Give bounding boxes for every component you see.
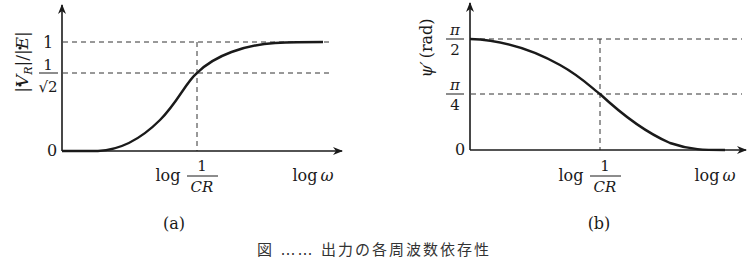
xlabel-b: logω (694, 166, 735, 185)
panel-label-b: (b) (588, 214, 611, 233)
svg-text:1: 1 (600, 157, 610, 175)
ytick-inv-sqrt2-num: 1 (43, 56, 53, 74)
svg-text:CR: CR (191, 178, 214, 196)
ytick-pi-half-den: 2 (450, 41, 460, 59)
figure-caption: 図 …… 出力の各周波数依存性 (0, 238, 748, 259)
svg-text:1: 1 (197, 157, 207, 175)
ytick-pi-quarter-den: 4 (450, 96, 460, 114)
dot-over-v (18, 83, 21, 86)
xtick-cutoff-a: log 1 CR (156, 157, 219, 196)
svg-text:logω: logω (694, 166, 735, 185)
ylabel-b: ψ′(rad) (417, 18, 436, 77)
svg-text:|VR|/|E|: |VR|/|E| (12, 31, 35, 93)
dot-over-e (18, 46, 21, 49)
xlabel-a: logω (292, 166, 333, 185)
svg-text:CR: CR (594, 178, 617, 196)
ytick-zero: 0 (47, 141, 57, 160)
panel-a: 1 1 √2 0 |VR|/|E| log 1 CR logω (a) (12, 5, 342, 233)
ytick-pi-quarter-num: π (449, 76, 461, 94)
ytick-inv-sqrt2-den: √2 (38, 78, 57, 96)
ytick-one: 1 (43, 33, 53, 52)
svg-text:ψ′(rad): ψ′(rad) (417, 18, 436, 77)
ytick-zero: 0 (455, 140, 465, 159)
svg-text:logω: logω (292, 166, 333, 185)
panel-b: π 2 π 4 0 ψ′(rad) log 1 CR logω (b) (417, 3, 746, 233)
magnitude-curve (62, 42, 323, 151)
panel-label-a: (a) (163, 214, 185, 233)
svg-text:log: log (156, 166, 181, 185)
svg-text:log: log (559, 166, 584, 185)
ytick-pi-half-num: π (449, 21, 461, 39)
xtick-cutoff-b: log 1 CR (559, 157, 622, 196)
ylabel-a: |VR|/|E| (12, 31, 35, 93)
